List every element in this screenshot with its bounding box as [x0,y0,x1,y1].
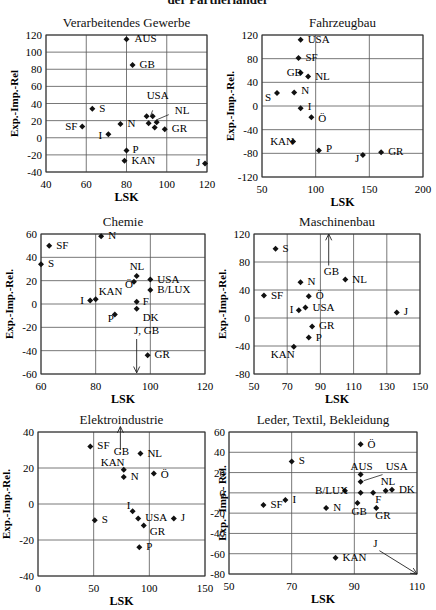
point-label: S [283,242,289,254]
y-tick-label: 0 [32,298,38,310]
x-tick-label: 90 [315,380,327,392]
y-axis-label: Exp.-Imp.-Rel [8,70,20,137]
chart-panel-c3: Chemie-60-40-2002040606080100120LSKExp.-… [0,200,218,405]
y-tick-label: 80 [247,53,259,65]
data-point-marker [38,261,44,267]
point-label: SF [270,498,282,510]
point-label: KAN [343,551,367,563]
data-point-marker [121,474,127,480]
data-point-marker [79,124,85,130]
x-tick-label: 150 [361,183,378,195]
data-point-marker [46,243,52,249]
chart-panel-c6: Leder, Textil, Bekleidung-80-60-40-20020… [218,405,436,610]
y-axis-label: Exp.-Imp.-Rel. [224,71,236,141]
point-label: Ö [125,278,133,290]
data-point-marker [282,497,288,503]
scatter-plot: -40-20020406080100120406080100120LSKExp.… [0,0,218,205]
data-point-marker [291,89,297,95]
data-point-marker [130,508,136,514]
data-point-marker [144,113,150,119]
data-point-marker [124,36,130,42]
y-tick-label: 20 [26,275,38,287]
x-tick-label: 60 [81,178,93,190]
point-label: J [196,156,201,168]
data-point-marker [146,120,152,126]
data-point-marker [141,523,147,529]
y-tick-label: 80 [239,256,251,268]
point-label: GB [351,505,366,517]
y-tick-label: -60 [210,548,225,560]
data-point-marker [274,90,280,96]
y-tick-label: 60 [214,426,226,438]
point-label: N [127,117,135,129]
y-tick-label: -80 [235,368,250,380]
y-tick-label: 80 [31,63,43,75]
data-point-marker [92,517,98,523]
x-tick-label: 130 [379,380,396,392]
point-label: I [98,129,102,141]
x-tick-label: 80 [90,380,102,392]
chart-panel-c5: Elektroindustrie-40-2002040050100150LSKE… [0,405,218,610]
y-tick-label: -80 [243,147,258,159]
y-tick-label: -120 [238,171,259,183]
point-label: NL [315,70,330,82]
x-tick-label: 150 [412,380,429,392]
point-label: NL [130,260,145,272]
data-point-marker [150,113,156,119]
x-tick-label: 50 [249,380,261,392]
scatter-plot: -40-2002040050100150LSKExp.-Imp.-Rel.GBS… [0,405,218,610]
point-label: USA [145,511,167,523]
point-label: NL [352,273,367,285]
annotation-label: NL [175,104,190,116]
point-label: B/LUX [315,484,348,496]
y-tick-label: -60 [22,368,37,380]
point-label: SF [65,120,77,132]
y-tick-label: 20 [23,462,35,474]
y-axis-label: Exp.-Imp.-Rel. [0,469,12,539]
data-point-marker [171,515,177,521]
point-label: GR [172,122,188,134]
data-point-marker [273,246,279,252]
data-point-marker [378,149,384,155]
data-point-marker [289,458,295,464]
point-label: USA [312,301,334,313]
point-label: P [146,540,152,552]
y-tick-label: 40 [247,76,259,88]
scatter-plot: -60-40-2002040606080100120LSKExp.-Imp.-R… [0,200,218,405]
data-point-marker [394,309,400,315]
point-label: P [326,142,332,154]
x-tick-label: 150 [197,582,214,594]
point-label: S [299,454,305,466]
point-label: USA [308,33,330,45]
point-label: I [308,100,312,112]
point-label: S [102,513,108,525]
x-tick-label: 60 [36,380,48,392]
data-point-marker [261,293,267,299]
x-tick-label: 80 [121,178,133,190]
point-label: Ö [316,289,324,301]
data-point-marker [105,131,111,137]
arrow-icon [379,551,417,574]
point-label: I [127,499,131,511]
point-label: B/LUX [157,283,190,295]
data-point-marker [295,55,301,61]
data-point-marker [305,73,311,79]
data-point-marker [342,277,348,283]
point-label: J [181,511,186,523]
y-tick-label: 100 [26,46,43,58]
x-tick-label: 50 [88,582,100,594]
x-axis-label: LSK [109,594,134,608]
data-point-marker [296,307,302,313]
data-point-marker [124,148,130,154]
point-label: GB [140,58,155,70]
x-tick-label: 70 [282,380,294,392]
point-label: N [108,229,116,241]
point-label: SF [271,289,283,301]
x-tick-label: 110 [409,580,426,592]
x-tick-label: 100 [159,178,176,190]
point-label: KAN [99,285,123,297]
data-point-marker [308,114,314,120]
y-tick-label: 40 [214,446,226,458]
point-label: AUS [135,32,157,44]
chart-panel-c2: Fahrzeugbau-120-80-400408012050100150200… [218,0,436,205]
